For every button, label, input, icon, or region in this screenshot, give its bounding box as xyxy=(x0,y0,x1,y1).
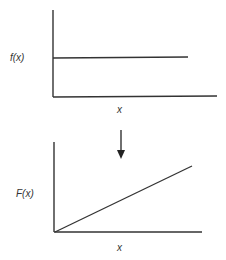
top-constant-curve xyxy=(53,57,188,58)
bottom-panel xyxy=(54,142,202,232)
diagram-graphics xyxy=(0,0,226,260)
bottom-x-axis-label: x xyxy=(117,243,122,253)
top-panel xyxy=(53,10,217,97)
top-x-axis xyxy=(53,96,217,97)
down-arrow-icon xyxy=(117,130,125,159)
top-x-axis-label: x xyxy=(117,105,122,115)
bottom-linear-curve xyxy=(55,166,192,232)
diagram-canvas: f(x) x F(x) x xyxy=(0,0,226,260)
bottom-y-axis-label: F(x) xyxy=(16,189,34,199)
top-y-axis-label: f(x) xyxy=(10,53,24,63)
